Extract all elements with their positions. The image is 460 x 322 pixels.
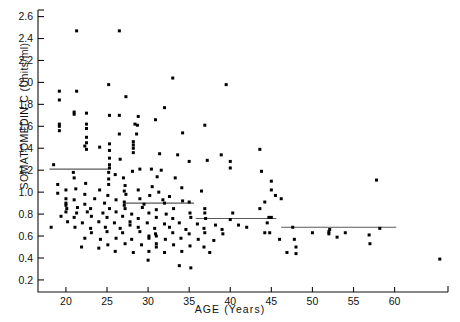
data-point: [181, 199, 184, 202]
data-point: [124, 184, 127, 187]
data-point: [83, 203, 86, 206]
data-point: [221, 228, 224, 231]
data-point: [258, 207, 261, 210]
data-point: [106, 230, 109, 233]
data-point: [90, 215, 93, 218]
data-point: [114, 250, 117, 253]
data-point: [200, 190, 203, 193]
data-point: [203, 207, 206, 210]
data-point: [212, 239, 215, 242]
data-point: [202, 246, 205, 249]
data-point: [258, 148, 261, 151]
data-point: [101, 211, 104, 214]
data-point: [137, 217, 140, 220]
median-segments: [50, 169, 397, 227]
data-point: [132, 143, 135, 146]
data-point: [147, 250, 150, 253]
data-point: [118, 29, 121, 32]
data-point: [188, 232, 191, 235]
data-point: [124, 95, 127, 98]
data-point: [107, 183, 110, 186]
data-point: [118, 132, 121, 135]
data-point: [180, 186, 183, 189]
data-point: [121, 215, 124, 218]
data-point: [153, 227, 156, 230]
data-point: [81, 221, 84, 224]
data-point: [168, 195, 171, 198]
data-point: [336, 236, 339, 239]
data-point: [132, 147, 135, 150]
data-point: [64, 188, 67, 191]
y-tick-label: 0.2: [18, 274, 33, 286]
data-point: [90, 231, 93, 234]
data-point: [178, 221, 181, 224]
data-point: [148, 194, 151, 197]
data-point: [74, 187, 77, 190]
data-point: [206, 159, 209, 162]
data-point: [131, 170, 134, 173]
data-point: [99, 238, 102, 241]
data-point: [221, 232, 224, 235]
data-point: [83, 145, 86, 148]
data-point: [84, 182, 87, 185]
data-point: [129, 220, 132, 223]
data-point: [208, 251, 211, 254]
data-point: [270, 216, 273, 219]
data-point: [108, 142, 111, 145]
data-point: [161, 198, 164, 201]
x-axis-label: AGE (Years): [0, 303, 460, 315]
data-point: [189, 266, 192, 269]
data-point: [150, 168, 153, 171]
data-point: [176, 153, 179, 156]
data-point: [108, 163, 111, 166]
data-point: [56, 192, 59, 195]
data-point: [118, 114, 121, 117]
data-point: [123, 201, 126, 204]
data-point: [103, 202, 106, 205]
data-point: [60, 215, 63, 218]
data-point: [50, 226, 53, 229]
data-point: [214, 224, 217, 227]
data-point: [188, 201, 191, 204]
data-point: [188, 160, 191, 163]
data-point: [106, 194, 109, 197]
data-point: [80, 246, 83, 249]
data-point: [155, 235, 158, 238]
data-point: [151, 185, 154, 188]
data-point: [64, 210, 67, 213]
data-point: [266, 221, 269, 224]
data-point: [294, 246, 297, 249]
data-point: [147, 211, 150, 214]
data-point: [263, 201, 266, 204]
data-point: [155, 246, 158, 249]
data-point: [268, 231, 271, 234]
data-point: [172, 207, 175, 210]
data-point: [85, 148, 88, 151]
data-point: [123, 204, 126, 207]
data-point: [142, 203, 145, 206]
data-point: [65, 207, 68, 210]
data-point: [291, 226, 294, 229]
data-point: [270, 180, 273, 183]
data-point: [108, 149, 111, 152]
data-point: [97, 247, 100, 250]
data-point: [89, 207, 92, 210]
data-point: [172, 243, 175, 246]
data-point: [260, 170, 263, 173]
scatter-plot-canvas: 202530354045505560 0.20.40.60.81.01.21.4…: [0, 0, 460, 322]
data-point: [171, 77, 174, 80]
data-point: [73, 113, 76, 116]
data-point: [83, 193, 86, 196]
data-point: [136, 124, 139, 127]
data-point: [225, 83, 228, 86]
data-point: [229, 160, 232, 163]
data-point: [140, 243, 143, 246]
data-point: [147, 259, 150, 262]
data-point: [98, 188, 101, 191]
data-point: [115, 210, 118, 213]
data-point: [189, 216, 192, 219]
data-point: [171, 231, 174, 234]
data-point: [163, 251, 166, 254]
data-point: [129, 224, 132, 227]
data-point: [294, 252, 297, 255]
